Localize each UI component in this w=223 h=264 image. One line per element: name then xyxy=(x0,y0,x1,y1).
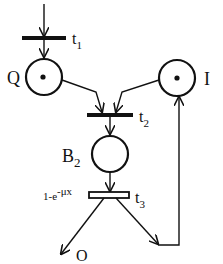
place-b2-label: B2 xyxy=(62,146,81,170)
petri-net-diagram: t1 Q I t2 B2 t3 1-e-μx xyxy=(0,0,223,264)
place-q xyxy=(26,59,62,95)
arc-i-t2 xyxy=(116,80,159,112)
place-b2 xyxy=(92,136,128,172)
transition-t1 xyxy=(22,36,66,40)
transition-t2-label: t2 xyxy=(139,108,149,129)
place-i-label: I xyxy=(204,69,210,89)
token-icon xyxy=(174,75,179,80)
transition-t3-rate-label: 1-e-μx xyxy=(43,185,73,202)
transition-t2 xyxy=(87,113,133,117)
arc-t3-o xyxy=(61,198,104,254)
place-q-label: Q xyxy=(7,68,20,88)
output-o-label: O xyxy=(76,247,88,264)
arc-q-t2 xyxy=(62,80,102,112)
transition-t3-label: t3 xyxy=(135,189,145,210)
transition-t3 xyxy=(89,192,129,198)
place-i xyxy=(159,60,195,96)
token-icon xyxy=(40,74,45,79)
transition-t1-label: t1 xyxy=(72,30,82,51)
